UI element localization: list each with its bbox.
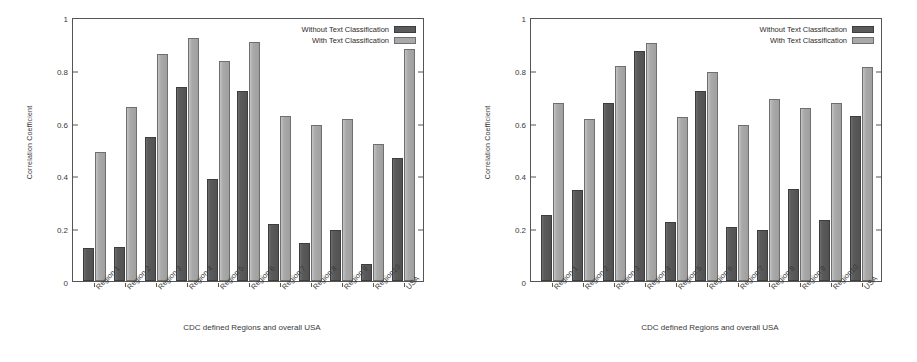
y-tick-label: 0.6	[515, 120, 531, 129]
legend-left: Without Text Classification With Text Cl…	[299, 23, 419, 47]
x-tick: Region 7	[723, 283, 754, 325]
bar-with-text-classification	[584, 119, 595, 281]
bar-group	[846, 19, 877, 281]
legend-swatch-without-icon	[852, 26, 874, 33]
chart-panel-right: Correlation Coefficient 00.20.40.60.81 W…	[458, 0, 916, 362]
bar-with-text-classification	[646, 43, 657, 281]
bar-with-text-classification	[677, 117, 688, 281]
y-axis-title-right: Correlation Coefficient	[480, 0, 496, 285]
x-tick: Region 1	[536, 283, 567, 325]
bar-group	[234, 19, 265, 281]
plot-area-right: 00.20.40.60.81 Without Text Classificati…	[530, 18, 882, 282]
bar-with-text-classification	[188, 38, 199, 281]
bar-group	[599, 19, 630, 281]
x-tick: Region 9	[785, 283, 816, 325]
x-tick: Region 1	[78, 283, 109, 325]
legend-label-without: Without Text Classification	[760, 25, 847, 34]
legend-right: Without Text Classification With Text Cl…	[757, 23, 877, 47]
bar-group	[784, 19, 815, 281]
bar-group	[141, 19, 172, 281]
bar-group	[753, 19, 784, 281]
x-tick: Region 6	[233, 283, 264, 325]
bar-with-text-classification	[862, 67, 873, 281]
x-tick: Region 3	[140, 283, 171, 325]
y-tick-label: 1	[522, 15, 531, 24]
legend-label-without: Without Text Classification	[302, 25, 389, 34]
bar-groups-left	[73, 19, 423, 281]
x-tick: Region10	[358, 283, 389, 325]
x-tick: Region 2	[109, 283, 140, 325]
bar-without-text-classification	[176, 87, 187, 281]
bar-group	[661, 19, 692, 281]
bar-group	[388, 19, 419, 281]
chart-panel-left: Correlation Coefficient 00.20.40.60.81 W…	[0, 0, 458, 362]
bar-group	[537, 19, 568, 281]
bar-without-text-classification	[603, 103, 614, 281]
bar-group	[203, 19, 234, 281]
x-tick: Region 5	[202, 283, 233, 325]
bar-with-text-classification	[831, 103, 842, 281]
bar-without-text-classification	[237, 91, 248, 281]
x-tick: Region 5	[660, 283, 691, 325]
x-tick: Region 4	[171, 283, 202, 325]
bar-with-text-classification	[800, 108, 811, 281]
bar-group	[110, 19, 141, 281]
x-tick: Region 8	[296, 283, 327, 325]
x-tick: Region 6	[691, 283, 722, 325]
bar-without-text-classification	[83, 248, 94, 281]
x-tick: Region 7	[265, 283, 296, 325]
bar-with-text-classification	[553, 103, 564, 281]
x-tick: USA	[847, 283, 878, 325]
x-tick: Region 9	[327, 283, 358, 325]
legend-label-with: With Text Classification	[312, 36, 389, 45]
bar-with-text-classification	[769, 99, 780, 281]
bar-with-text-classification	[157, 54, 168, 281]
legend-swatch-with-icon	[852, 37, 874, 44]
bar-group	[568, 19, 599, 281]
bar-group	[79, 19, 110, 281]
figure-two-bar-charts: Correlation Coefficient 00.20.40.60.81 W…	[0, 0, 917, 362]
bar-with-text-classification	[249, 42, 260, 281]
bar-group	[264, 19, 295, 281]
bar-with-text-classification	[707, 72, 718, 281]
bar-with-text-classification	[219, 61, 230, 281]
legend-item-with: With Text Classification	[302, 36, 416, 45]
bar-with-text-classification	[342, 119, 353, 281]
x-axis-ticks-left: Region 1Region 2Region 3Region 4Region 5…	[72, 283, 424, 325]
bar-with-text-classification	[95, 152, 106, 281]
x-axis-title-left: CDC defined Regions and overall USA	[0, 323, 458, 332]
bar-group	[630, 19, 661, 281]
legend-item-without: Without Text Classification	[760, 25, 874, 34]
legend-item-without: Without Text Classification	[302, 25, 416, 34]
bar-without-text-classification	[695, 91, 706, 281]
bar-group	[722, 19, 753, 281]
bar-with-text-classification	[280, 116, 291, 281]
x-axis-ticks-right: Region 1Region 2Region 3Region 4Region 5…	[530, 283, 882, 325]
bar-without-text-classification	[145, 137, 156, 281]
bar-without-text-classification	[634, 51, 645, 281]
bar-without-text-classification	[541, 215, 552, 281]
bar-group	[815, 19, 846, 281]
legend-swatch-without-icon	[394, 26, 416, 33]
x-axis-title-right: CDC defined Regions and overall USA	[458, 323, 916, 332]
y-axis-title-left: Correlation Coefficient	[22, 0, 38, 285]
legend-swatch-with-icon	[394, 37, 416, 44]
legend-item-with: With Text Classification	[760, 36, 874, 45]
bar-with-text-classification	[373, 144, 384, 281]
x-tick: Region10	[816, 283, 847, 325]
x-tick: Region 3	[598, 283, 629, 325]
bar-with-text-classification	[404, 49, 415, 281]
y-tick-label: 1	[64, 15, 73, 24]
y-tick-label: 0.4	[57, 173, 73, 182]
x-tick: Region 2	[567, 283, 598, 325]
bar-group	[692, 19, 723, 281]
x-tick: USA	[389, 283, 420, 325]
y-tick-label: 0.2	[515, 226, 531, 235]
bar-with-text-classification	[126, 107, 137, 281]
bar-without-text-classification	[850, 116, 861, 281]
bar-group	[295, 19, 326, 281]
bar-group	[326, 19, 357, 281]
bar-group	[357, 19, 388, 281]
y-tick-label: 0.4	[515, 173, 531, 182]
y-tick-label: 0.8	[57, 67, 73, 76]
